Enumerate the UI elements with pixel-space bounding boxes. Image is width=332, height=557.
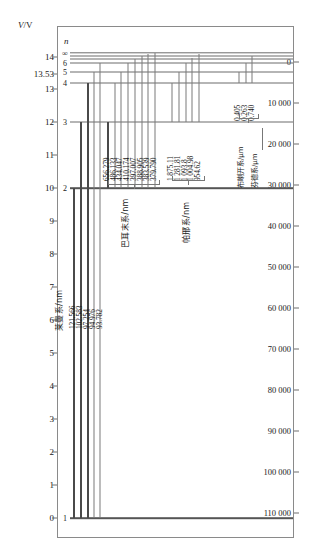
brace-brackett-top <box>239 118 259 119</box>
right-tick-label: 90 000 <box>268 426 294 436</box>
transition-brackett-alpha <box>239 72 240 83</box>
left-tick-mark <box>52 518 57 519</box>
left-tick-mark <box>52 188 57 189</box>
quantum-number-header: n <box>64 36 69 46</box>
level-label-n1: 1 <box>63 514 67 523</box>
transition-brackett-beta <box>246 63 247 83</box>
energy-level-line-n5 <box>70 72 293 73</box>
brace-balmer-right <box>159 180 160 185</box>
left-tick-mark <box>52 74 57 75</box>
left-tick-mark <box>52 221 57 222</box>
wavelength-label-paschen: 954.62 <box>193 161 202 181</box>
left-tick-mark <box>52 485 57 486</box>
right-tick-mark <box>294 226 299 227</box>
brace-balmer-stem <box>134 184 135 189</box>
level-label-n-infinity: ∞ <box>62 49 68 58</box>
transition-paschen-alpha <box>172 83 173 122</box>
left-tick-mark <box>52 452 57 453</box>
brace-brackett-right <box>258 114 259 119</box>
right-tick-label: 40 000 <box>268 221 294 231</box>
level-label-n6: 6 <box>63 59 67 68</box>
brace-brackett-stem <box>248 118 249 123</box>
right-tick-mark <box>294 103 299 104</box>
energy-level-line-n8 <box>70 56 293 57</box>
right-tick-label: 100 000 <box>263 467 294 477</box>
right-axis-ticks: 0 10 000 20 000 30 000 40 000 50 000 60 … <box>294 0 332 557</box>
right-tick-mark <box>294 267 299 268</box>
brace-paschen-right <box>204 176 205 181</box>
level-label-n4: 4 <box>63 79 67 88</box>
transition-paschen-delta <box>192 58 193 122</box>
energy-level-line-n6 <box>70 63 293 64</box>
level-label-n3: 3 <box>63 118 67 127</box>
left-tick-mark <box>52 419 57 420</box>
level-label-n2: 2 <box>63 184 67 193</box>
brace-paschen-stem <box>188 180 189 185</box>
right-tick-mark <box>294 472 299 473</box>
transition-lyman-delta <box>94 72 95 518</box>
transition-lyman-gamma <box>87 83 89 518</box>
right-tick-mark <box>294 513 299 514</box>
transition-brackett-gamma <box>252 56 253 83</box>
right-tick-label: 50 000 <box>268 262 294 272</box>
series-name-paschen: 帕邢系/nm <box>180 202 191 243</box>
energy-level-line-n-infinity <box>70 52 293 53</box>
right-tick-label: 60 000 <box>268 303 294 313</box>
right-tick-mark <box>294 308 299 309</box>
right-tick-mark <box>294 390 299 391</box>
left-tick-mark <box>52 89 57 90</box>
energy-level-diagram-figure: V/V ν̃/cm−1 14 13.53 13.53 13 12 11 10 9… <box>0 0 332 557</box>
left-axis-ticks: 14 13.53 13.53 13 12 11 10 9 8 7 6 5 4 3… <box>0 0 57 557</box>
right-tick-label: 80 000 <box>268 385 294 395</box>
brace-paschen-left <box>172 176 173 181</box>
energy-level-line-n3 <box>70 122 293 123</box>
series-name-balmer: 巴耳末系/nm <box>119 198 130 248</box>
right-tick-mark <box>294 349 299 350</box>
energy-level-line-n2 <box>70 187 293 189</box>
left-tick-mark <box>52 353 57 354</box>
left-tick-mark <box>52 122 57 123</box>
left-tick-mark <box>52 287 57 288</box>
right-tick-mark <box>294 62 299 63</box>
right-tick-label: 70 000 <box>268 344 294 354</box>
wavelength-label-lyman: 93.782 <box>95 309 104 329</box>
pfund-indicator-line <box>262 128 263 150</box>
right-tick-label: 20 000 <box>268 139 294 149</box>
right-tick-mark <box>294 431 299 432</box>
wavelength-label-balmer: 379.790 <box>149 158 158 181</box>
energy-level-line-n7 <box>70 59 293 60</box>
right-tick-mark <box>294 144 299 145</box>
brace-brackett-left <box>239 114 240 119</box>
series-name-pfund: 芬德系/μm <box>249 153 259 188</box>
series-name-brackett: 布喇开系/μm <box>235 146 245 188</box>
left-tick-mark <box>52 254 57 255</box>
energy-level-line-n4 <box>70 83 293 84</box>
left-tick-mark <box>52 155 57 156</box>
level-label-n5: 5 <box>63 68 67 77</box>
right-tick-mark <box>294 185 299 186</box>
left-tick-mark <box>52 57 57 58</box>
left-tick-mark <box>52 386 57 387</box>
transition-paschen-gamma <box>186 63 187 122</box>
transition-lyman-epsilon <box>100 63 101 518</box>
brace-balmer-left <box>108 180 109 185</box>
transition-paschen-5 <box>199 54 200 122</box>
series-name-lyman: 莱曼系/nm <box>53 290 64 331</box>
right-tick-label: 10 000 <box>268 98 294 108</box>
transition-paschen-beta <box>179 72 180 122</box>
energy-level-line-n1 <box>70 517 293 519</box>
transition-lyman-alpha <box>73 188 75 518</box>
